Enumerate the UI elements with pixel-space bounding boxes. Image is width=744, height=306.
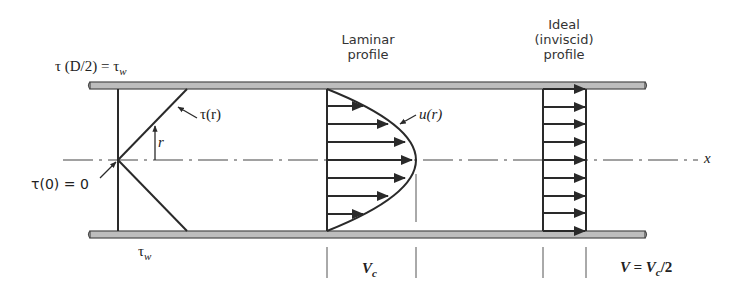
radius-label: r [158, 134, 164, 151]
laminar-profile-title: Laminar profile [318, 32, 418, 62]
centerline-velocity-label: Vc [362, 260, 377, 279]
x-axis-label: x [704, 150, 711, 167]
pipe-top-wall [89, 82, 647, 89]
wall-shear-label: τ (D/2) = τw [55, 58, 127, 77]
bottom-wall-shear-label: τw [138, 243, 151, 262]
velocity-leader [400, 115, 416, 124]
ideal-profile-title: Ideal (inviscid) profile [514, 17, 614, 62]
velocity-u-label: u(r) [419, 106, 442, 123]
ideal-profile [543, 89, 586, 231]
center-shear-label: τ(0) = 0 [31, 176, 89, 192]
pipe-flow-diagram: τ (D/2) = τw τ(r) r τ(0) = 0 τw Laminar … [0, 0, 744, 306]
pipe-bottom-wall [89, 231, 647, 238]
shear-leader [178, 107, 197, 118]
center-shear-leader [100, 162, 116, 178]
shear-r-label: τ(r) [200, 106, 221, 123]
laminar-profile [327, 89, 416, 231]
mean-velocity-label: V = Vc/2 [620, 259, 672, 278]
